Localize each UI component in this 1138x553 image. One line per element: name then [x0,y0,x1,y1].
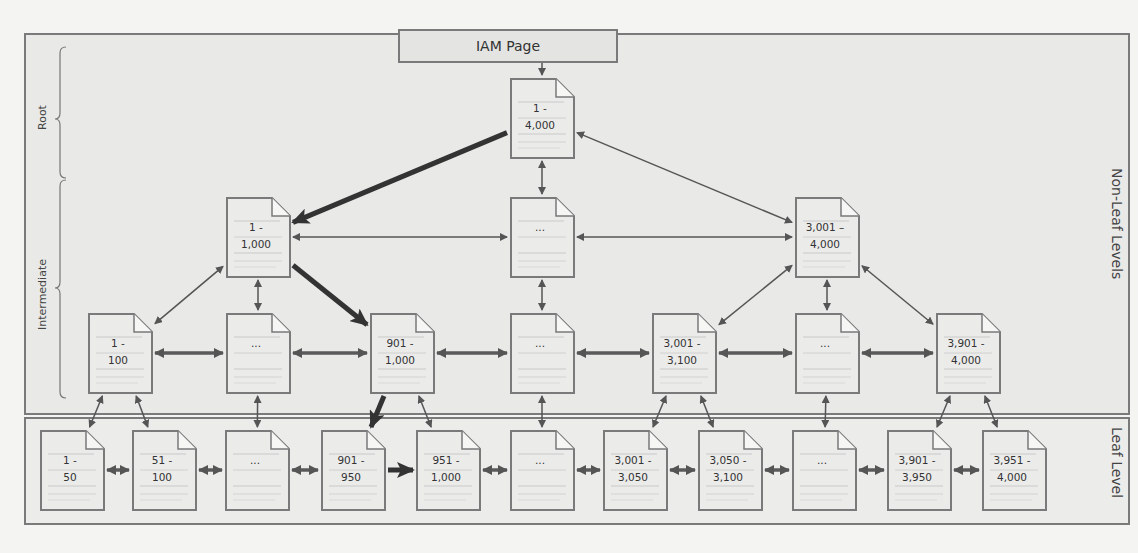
pointer-arrow-double [577,133,792,223]
page-range-label: 1 - 4,000 [510,100,570,134]
page-icon [510,313,576,395]
page-range-label: 3,001 – 4,000 [795,219,855,253]
page-range-label: ... [795,335,855,352]
page-range-label: 1 - 100 [88,335,148,369]
page-range-label: 3,050 - 3,100 [698,452,758,486]
page-range-label: ... [510,452,570,469]
page-range-label: 901 - 950 [321,452,381,486]
page-icon [225,430,291,512]
iam-page-box: IAM Page [398,29,618,63]
pointer-arrow-double [825,396,826,427]
index-page-leaf-7: 3,001 - 3,050 [603,430,667,510]
index-page-int2-e: 3,001 - 3,100 [652,313,716,393]
page-range-label: ... [510,219,570,236]
page-icon [226,313,292,395]
index-page-int2-a: 1 - 100 [88,313,152,393]
page-range-label: 1 - 50 [40,452,100,486]
index-page-leaf-1: 1 - 50 [40,430,104,510]
pointer-arrow-bold [371,396,384,427]
pointer-arrow-bold [293,133,507,223]
iam-page-label: IAM Page [476,38,540,54]
index-page-int2-f: ... [795,313,859,393]
page-range-label: ... [510,335,570,352]
index-page-leaf-5: 951 - 1,000 [416,430,480,510]
index-page-int2-c: 901 - 1,000 [370,313,434,393]
index-page-int2-d: ... [510,313,574,393]
pointer-arrow-double [653,396,666,427]
index-page-leaf-11: 3,951 - 4,000 [982,430,1046,510]
pointer-arrow-double [90,396,103,427]
page-range-label: 3,001 - 3,050 [603,452,663,486]
page-range-label: 3,001 - 3,100 [652,335,712,369]
page-range-label: 3,951 - 4,000 [982,452,1042,486]
page-range-label: 51 - 100 [132,452,192,486]
page-range-label: 3,901 - 4,000 [936,335,996,369]
pointer-arrow-double [719,265,792,324]
pointer-arrow-double [136,396,148,427]
pointer-arrow-double [701,396,713,427]
index-page-int1-b: ... [510,197,574,277]
index-page-leaf-2: 51 - 100 [132,430,196,510]
pointer-arrow-double [155,266,223,323]
index-page-leaf-9: ... [792,430,856,510]
page-icon [795,313,861,395]
index-page-int2-g: 3,901 - 4,000 [936,313,1000,393]
page-range-label: ... [225,452,285,469]
index-page-int2-b: ... [226,313,290,393]
page-range-label: ... [792,452,852,469]
pointer-arrow-double [419,396,431,427]
index-page-int1-c: 3,001 – 4,000 [795,197,859,277]
index-page-leaf-4: 901 - 950 [321,430,385,510]
page-range-label: 901 - 1,000 [370,335,430,369]
pointer-arrow-bold [293,265,367,325]
page-range-label: 3,901 - 3,950 [887,452,947,486]
index-page-leaf-6: ... [510,430,574,510]
page-icon [510,197,576,279]
index-page-int1-a: 1 - 1,000 [226,197,290,277]
page-icon [792,430,858,512]
index-page-leaf-10: 3,901 - 3,950 [887,430,951,510]
page-icon [510,430,576,512]
page-range-label: 951 - 1,000 [416,452,476,486]
index-page-leaf-8: 3,050 - 3,100 [698,430,762,510]
pointer-arrow-double [862,266,933,324]
pointer-arrow-double [937,396,950,427]
index-page-leaf-3: ... [225,430,289,510]
page-range-label: 1 - 1,000 [226,219,286,253]
pointer-arrow-double [985,396,997,427]
page-range-label: ... [226,335,286,352]
index-page-root: 1 - 4,000 [510,78,574,158]
b-tree-diagram: Root Intermediate Non-Leaf Levels Leaf L… [0,0,1138,553]
